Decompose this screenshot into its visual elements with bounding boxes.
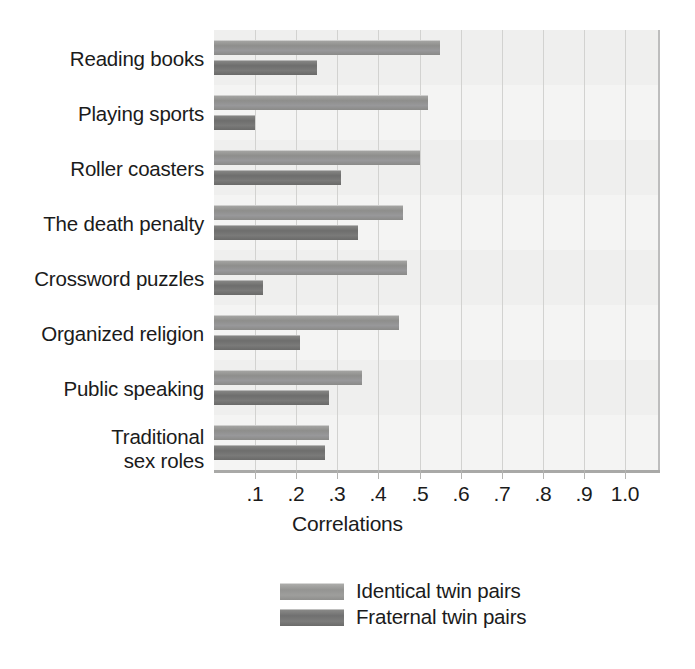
x-tick-label: 1.0 <box>611 482 639 506</box>
x-tick-label: .7 <box>494 482 511 506</box>
plot-band <box>214 415 658 470</box>
bar <box>214 335 300 350</box>
gridline-10 <box>625 30 626 470</box>
x-tick-label: .1 <box>247 482 264 506</box>
x-tick-label: .9 <box>576 482 593 506</box>
gridline-7 <box>502 30 503 470</box>
legend-swatch-identical <box>280 583 344 600</box>
bar <box>214 150 420 165</box>
x-tick-mark <box>296 470 297 479</box>
bar <box>214 445 325 460</box>
legend-label: Identical twin pairs <box>356 579 521 603</box>
x-tick-mark <box>461 470 462 479</box>
category-label: The death penalty <box>0 212 204 236</box>
bar <box>214 170 341 185</box>
category-label: Traditional sex roles <box>0 425 204 473</box>
category-axis: Reading booksPlaying sportsRoller coaste… <box>0 30 204 470</box>
category-label: Playing sports <box>0 102 204 126</box>
category-label: Reading books <box>0 47 204 71</box>
bar <box>214 280 263 295</box>
category-label: Organized religion <box>0 322 204 346</box>
x-tick-label: .2 <box>288 482 305 506</box>
x-axis-title: Correlations <box>0 512 695 536</box>
bar <box>214 95 428 110</box>
correlations-bar-chart: Reading booksPlaying sportsRoller coaste… <box>0 0 695 669</box>
plot-band <box>214 85 658 140</box>
bar <box>214 40 440 55</box>
x-tick-label: .4 <box>370 482 387 506</box>
bar <box>214 425 329 440</box>
bar <box>214 225 358 240</box>
gridline-6 <box>461 30 462 470</box>
x-tick-label: .5 <box>412 482 429 506</box>
x-tick-mark <box>255 470 256 479</box>
x-tick-mark <box>543 470 544 479</box>
x-tick-mark <box>337 470 338 479</box>
x-tick-mark <box>420 470 421 479</box>
plot-area <box>214 30 660 470</box>
gridline-9 <box>584 30 585 470</box>
x-tick-mark <box>584 470 585 479</box>
legend-label: Fraternal twin pairs <box>356 605 526 629</box>
legend-item: Fraternal twin pairs <box>280 604 610 630</box>
x-tick-label: .6 <box>453 482 470 506</box>
x-tick-mark <box>378 470 379 479</box>
bar <box>214 115 255 130</box>
bar <box>214 370 362 385</box>
gridline-8 <box>543 30 544 470</box>
x-tick-label: .3 <box>329 482 346 506</box>
plot-band <box>214 305 658 360</box>
x-axis-line <box>214 470 660 473</box>
bar <box>214 205 403 220</box>
chart-legend: Identical twin pairsFraternal twin pairs <box>280 578 610 630</box>
legend-item: Identical twin pairs <box>280 578 610 604</box>
x-tick-label: .8 <box>535 482 552 506</box>
category-label: Crossword puzzles <box>0 267 204 291</box>
x-tick-mark <box>502 470 503 479</box>
legend-swatch-fraternal <box>280 609 344 626</box>
category-label: Roller coasters <box>0 157 204 181</box>
bar <box>214 315 399 330</box>
bar <box>214 60 317 75</box>
bar <box>214 390 329 405</box>
plot-band <box>214 195 658 250</box>
bar <box>214 260 407 275</box>
category-label: Public speaking <box>0 377 204 401</box>
x-tick-mark <box>625 470 626 479</box>
